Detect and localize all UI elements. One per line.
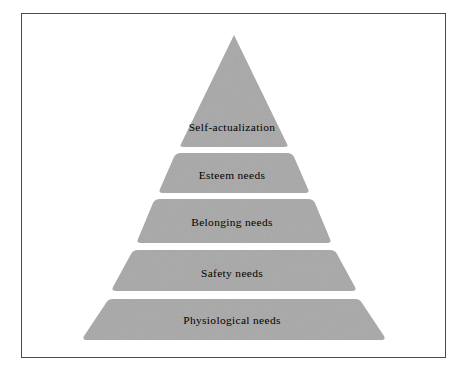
pyramid-tier-3-label: Belonging needs <box>0 217 464 228</box>
maslow-pyramid-figure: Self-actualization Esteem needs Belongin… <box>0 0 464 374</box>
pyramid-tier-4-label: Safety needs <box>0 268 464 279</box>
pyramid-tier-labels: Self-actualization Esteem needs Belongin… <box>0 0 464 374</box>
pyramid-tier-1-label: Self-actualization <box>0 122 464 133</box>
pyramid-tier-2-label: Esteem needs <box>0 170 464 181</box>
pyramid-tier-5-label: Physiological needs <box>0 315 464 326</box>
